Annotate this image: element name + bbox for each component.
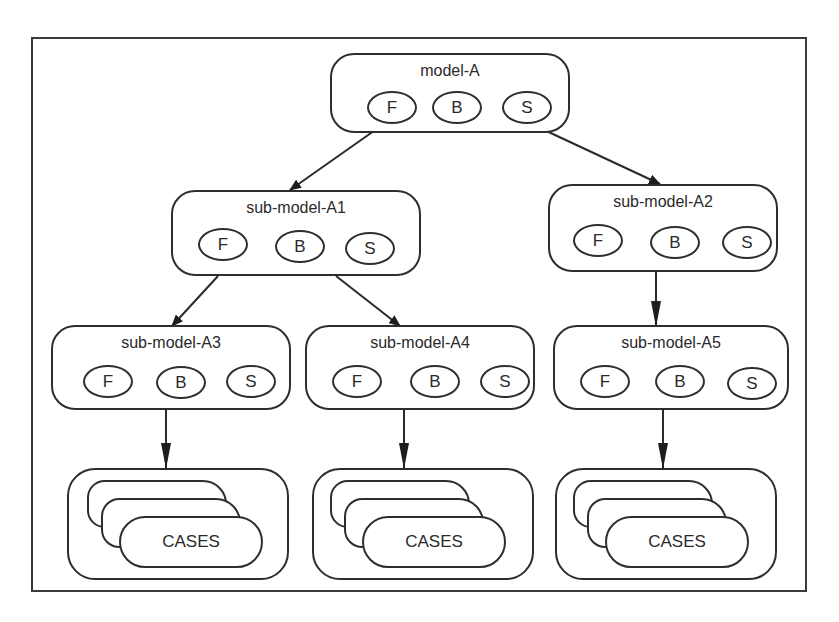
- case-card-front: CASES: [119, 516, 263, 568]
- component-S[interactable]: S: [480, 365, 530, 398]
- sub-model-A1-node[interactable]: sub-model-A1 F B S: [171, 190, 421, 276]
- component-F[interactable]: F: [367, 91, 417, 124]
- component-S[interactable]: S: [345, 232, 395, 265]
- sub-model-A2-node[interactable]: sub-model-A2 F B S: [548, 184, 778, 272]
- component-S[interactable]: S: [727, 367, 777, 400]
- component-F[interactable]: F: [573, 224, 623, 257]
- sub-model-A4-node[interactable]: sub-model-A4 F B S: [305, 325, 535, 410]
- component-F[interactable]: F: [83, 365, 133, 398]
- cases-stack-A3[interactable]: CASES: [67, 468, 289, 580]
- cases-label: CASES: [648, 532, 706, 552]
- cases-label: CASES: [162, 532, 220, 552]
- component-F[interactable]: F: [580, 365, 630, 398]
- model-title: sub-model-A4: [307, 334, 533, 352]
- model-title: sub-model-A3: [53, 334, 289, 352]
- component-F[interactable]: F: [332, 365, 382, 398]
- case-card-front: CASES: [362, 516, 506, 568]
- component-B[interactable]: B: [275, 230, 325, 263]
- component-B[interactable]: B: [650, 226, 700, 259]
- model-title: sub-model-A1: [173, 199, 419, 217]
- component-B[interactable]: B: [655, 365, 705, 398]
- component-B[interactable]: B: [410, 365, 460, 398]
- component-S[interactable]: S: [722, 226, 772, 259]
- edge-A1-A3: [172, 276, 218, 326]
- edge-A1-A4: [336, 276, 400, 326]
- component-B[interactable]: B: [432, 91, 482, 124]
- sub-model-A5-node[interactable]: sub-model-A5 F B S: [553, 325, 789, 410]
- sub-model-A3-node[interactable]: sub-model-A3 F B S: [51, 325, 291, 410]
- component-S[interactable]: S: [502, 91, 552, 124]
- component-S[interactable]: S: [226, 365, 276, 398]
- case-card-front: CASES: [605, 516, 749, 568]
- cases-stack-A4[interactable]: CASES: [312, 468, 534, 580]
- cases-stack-A5[interactable]: CASES: [555, 468, 777, 580]
- cases-label: CASES: [405, 532, 463, 552]
- model-A-node[interactable]: model-A F B S: [330, 53, 570, 133]
- component-B[interactable]: B: [156, 366, 206, 399]
- component-F[interactable]: F: [198, 228, 248, 261]
- model-title: model-A: [332, 62, 568, 80]
- model-title: sub-model-A5: [555, 334, 787, 352]
- model-title: sub-model-A2: [550, 193, 776, 211]
